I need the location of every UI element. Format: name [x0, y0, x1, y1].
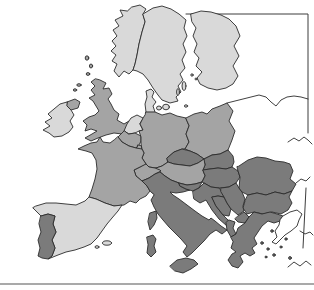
aland-island — [191, 74, 193, 76]
country-bulgaria — [243, 191, 292, 214]
aegean-island — [265, 256, 267, 258]
europe-map — [0, 0, 314, 290]
aegean-island — [285, 238, 287, 240]
aland-island — [195, 78, 197, 80]
oland-island — [177, 89, 180, 96]
bornholm-island — [184, 105, 187, 107]
orkney-island — [86, 73, 90, 76]
aegean-island — [261, 242, 264, 245]
aegean-island — [267, 248, 269, 250]
gotland-island — [182, 82, 186, 91]
aegean-island — [280, 246, 282, 248]
hebrides-island — [73, 89, 76, 91]
ibiza-island — [95, 246, 99, 249]
denmark-funen-island — [157, 106, 162, 110]
country-finland — [191, 11, 240, 90]
denmark-zealand-island — [163, 104, 170, 110]
aegean-island — [273, 254, 276, 257]
map-figure — [0, 0, 314, 290]
mallorca-island — [103, 241, 112, 245]
rhodes-island — [289, 257, 292, 260]
country-portugal — [38, 214, 56, 259]
orkney-island — [89, 64, 92, 68]
shetland-island — [85, 56, 89, 60]
aegean-island — [271, 230, 274, 233]
hebrides-island — [77, 84, 81, 87]
country-romania — [237, 157, 296, 195]
